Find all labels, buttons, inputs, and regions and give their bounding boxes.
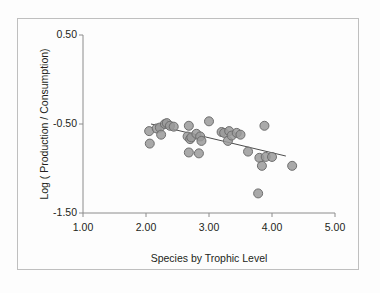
- data-point: [205, 117, 214, 126]
- data-point: [257, 161, 266, 170]
- data-point: [254, 189, 263, 198]
- x-axis-title: Species by Trophic Level: [83, 252, 335, 264]
- tick-marks: [79, 35, 335, 217]
- data-point: [194, 149, 203, 158]
- data-point: [145, 139, 154, 148]
- data-point: [157, 130, 166, 139]
- data-point: [184, 121, 193, 130]
- data-point: [268, 152, 277, 161]
- data-point: [260, 121, 269, 130]
- y-axis-title: Log ( Production / Consumption): [38, 34, 50, 214]
- chart-figure: 0.50-0.50-1.50 1.002.003.004.005.00 Spec…: [0, 0, 380, 293]
- data-point: [197, 136, 206, 145]
- data-point: [169, 122, 178, 131]
- data-points: [145, 117, 297, 198]
- data-point: [236, 130, 245, 139]
- data-point: [184, 148, 193, 157]
- x-tick-label: 1.00: [58, 221, 108, 233]
- scatter-plot-canvas: [0, 0, 380, 293]
- data-point: [288, 161, 297, 170]
- x-tick-label: 3.00: [184, 221, 234, 233]
- data-point: [244, 147, 253, 156]
- x-tick-label: 4.00: [247, 221, 297, 233]
- x-tick-label: 5.00: [310, 221, 360, 233]
- x-tick-label: 2.00: [121, 221, 171, 233]
